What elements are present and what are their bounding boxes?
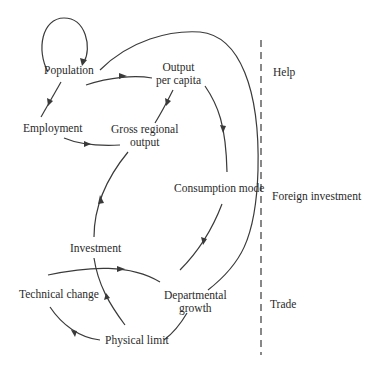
external-help: Help [273, 66, 295, 79]
arrowhead-output-per-capita-consumption [220, 125, 226, 133]
node-departmental-growth: Departmental growth [164, 289, 227, 315]
arrowhead-population-output-per-capita [119, 73, 127, 79]
node-investment: Investment [70, 242, 121, 255]
edge-technical-change-departmental-growth [48, 268, 160, 282]
node-output-per-capita: Output per capita [156, 61, 201, 87]
node-technical-change: Technical change [19, 288, 99, 301]
edge-gro-output-per-capita [155, 90, 173, 123]
node-output-per-capita-line1: Output [156, 61, 201, 74]
arrowhead-physical-limit-technical-change [71, 330, 77, 337]
node-departmental-growth-line2: growth [164, 302, 227, 315]
node-physical-limit: Physical limit [105, 334, 169, 347]
node-output-per-capita-line2: per capita [156, 74, 201, 87]
node-employment: Employment [23, 122, 82, 135]
edge-population-employment [41, 82, 61, 117]
arrowhead-population-employment [47, 98, 53, 106]
node-gro-line1: Gross regional [111, 123, 178, 136]
arrowhead-technical-change-departmental-growth [117, 266, 125, 272]
edge-investment-gro [94, 152, 128, 237]
node-population: Population [44, 64, 94, 77]
arrowhead-employment-gro [84, 141, 91, 147]
node-gro-line2: output [111, 136, 178, 149]
node-departmental-growth-line1: Departmental [164, 289, 227, 302]
node-gross-regional-output: Gross regional output [111, 123, 178, 149]
node-consumption-mode: Consumption mode [174, 182, 264, 195]
external-foreign-investment: Foreign investment [272, 190, 361, 203]
external-trade: Trade [270, 298, 296, 311]
causal-loop-diagram: Population Output per capita Employment … [0, 0, 365, 371]
